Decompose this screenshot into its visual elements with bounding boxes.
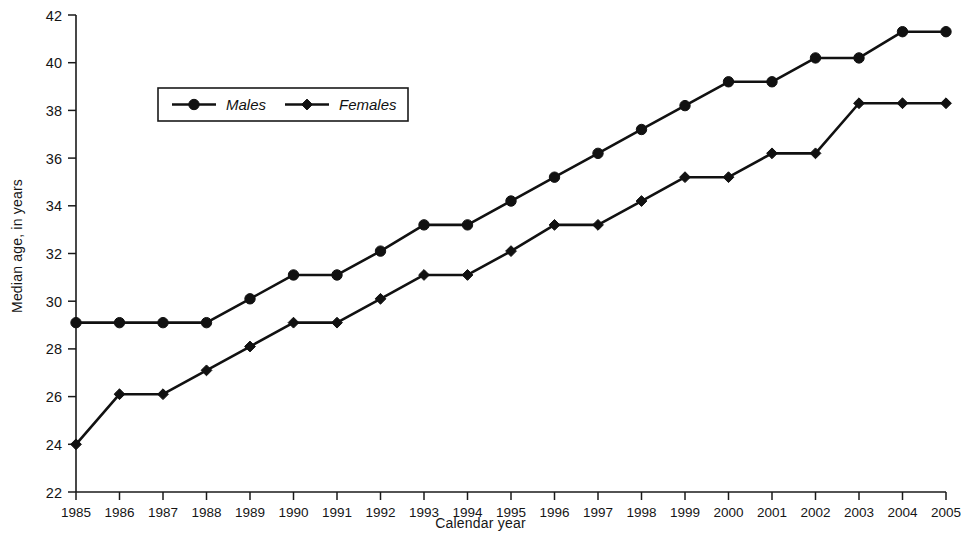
data-point-marker xyxy=(767,148,778,159)
x-tick-label: 1994 xyxy=(452,505,483,520)
x-tick-label: 1987 xyxy=(148,505,178,520)
data-point-marker xyxy=(723,172,734,183)
x-tick-label: 2003 xyxy=(844,505,874,520)
data-point-marker xyxy=(245,341,256,352)
y-tick-label: 34 xyxy=(46,198,62,214)
data-point-marker xyxy=(767,77,777,87)
data-point-marker xyxy=(897,98,908,109)
data-point-marker xyxy=(810,53,820,63)
data-point-marker xyxy=(462,270,473,281)
x-tick-label: 1999 xyxy=(670,505,700,520)
data-point-marker xyxy=(636,196,647,207)
data-point-marker xyxy=(462,220,472,230)
x-tick-label: 1989 xyxy=(235,505,265,520)
data-point-marker xyxy=(854,53,864,63)
chart-legend[interactable]: MalesFemales xyxy=(158,88,408,121)
data-point-marker xyxy=(897,26,907,36)
y-tick-label: 32 xyxy=(46,246,62,262)
data-point-marker xyxy=(506,196,516,206)
legend-label: Males xyxy=(226,96,267,113)
x-tick-label: 2001 xyxy=(757,505,787,520)
data-point-marker xyxy=(201,317,211,327)
x-tick-label: 1997 xyxy=(583,505,613,520)
data-point-marker xyxy=(419,270,430,281)
x-axis-ticks: 1985198619871988198919901991199219931994… xyxy=(61,492,961,520)
series-males xyxy=(71,26,951,327)
x-tick-label: 1990 xyxy=(278,505,308,520)
x-tick-label: 2005 xyxy=(931,505,961,520)
data-point-marker xyxy=(680,172,691,183)
y-tick-label: 40 xyxy=(46,55,62,71)
data-point-marker xyxy=(245,294,255,304)
data-point-marker xyxy=(941,98,952,109)
series-line xyxy=(76,32,946,323)
data-point-marker xyxy=(114,317,124,327)
data-point-marker xyxy=(71,317,81,327)
y-tick-label: 24 xyxy=(46,437,62,453)
y-tick-label: 26 xyxy=(46,389,62,405)
data-point-marker xyxy=(680,100,690,110)
x-tick-label: 2002 xyxy=(800,505,830,520)
y-tick-label: 28 xyxy=(46,341,62,357)
data-point-marker xyxy=(419,220,429,230)
legend-label: Females xyxy=(339,96,397,113)
x-tick-label: 2004 xyxy=(887,505,918,520)
data-point-marker xyxy=(288,270,298,280)
data-point-marker xyxy=(158,389,169,400)
x-tick-label: 2000 xyxy=(713,505,743,520)
x-tick-label: 1985 xyxy=(61,505,91,520)
x-tick-label: 1991 xyxy=(322,505,352,520)
data-point-marker xyxy=(723,77,733,87)
data-point-marker xyxy=(636,124,646,134)
data-point-marker xyxy=(549,172,559,182)
data-point-marker xyxy=(593,148,603,158)
legend-marker-circle xyxy=(189,99,199,109)
y-tick-label: 42 xyxy=(46,8,62,24)
x-tick-label: 1998 xyxy=(626,505,656,520)
data-point-marker xyxy=(201,365,212,376)
series-females xyxy=(71,98,952,450)
data-point-marker xyxy=(158,317,168,327)
y-tick-label: 30 xyxy=(46,294,62,310)
y-tick-label: 38 xyxy=(46,103,62,119)
data-point-marker xyxy=(375,293,386,304)
data-point-marker xyxy=(941,26,951,36)
x-tick-label: 1986 xyxy=(104,505,134,520)
data-point-marker xyxy=(593,219,604,230)
x-tick-label: 1996 xyxy=(539,505,569,520)
y-axis-ticks: 2224262830323436384042 xyxy=(46,8,76,501)
line-chart-plot: 2224262830323436384042 19851986198719881… xyxy=(0,0,961,544)
y-tick-label: 36 xyxy=(46,151,62,167)
data-point-marker xyxy=(332,270,342,280)
x-tick-label: 1995 xyxy=(496,505,526,520)
data-point-marker xyxy=(375,246,385,256)
y-tick-label: 22 xyxy=(46,485,62,501)
data-point-marker xyxy=(332,317,343,328)
x-tick-label: 1993 xyxy=(409,505,439,520)
x-tick-label: 1988 xyxy=(191,505,221,520)
data-point-marker xyxy=(288,317,299,328)
chart-figure: Median age, in years Calendar year 22242… xyxy=(0,0,961,544)
x-tick-label: 1992 xyxy=(365,505,395,520)
